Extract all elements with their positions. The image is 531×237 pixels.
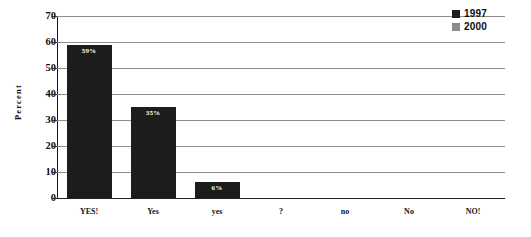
gridline [57,94,505,95]
legend-item: 1997 [452,8,514,20]
bar-value-label: 35% [131,109,176,117]
legend-swatch-icon [452,23,460,31]
legend-label: 2000 [464,22,487,32]
gridline [57,16,505,17]
bar: 35% [131,107,176,198]
gridline [57,146,505,147]
x-axis-category-label: NO! [433,208,513,216]
bar: 59% [67,45,112,198]
bar-chart: Percent 010203040506070 59%35%6% YES!Yes… [0,0,531,237]
chart-legend: 19972000 [452,8,514,34]
y-axis-tick-labels: 010203040506070 [28,0,56,237]
axis-baseline [57,198,505,199]
plot-area: 59%35%6% [57,16,505,198]
gridline [57,120,505,121]
bar: 6% [195,182,240,198]
gridline [57,172,505,173]
legend-item: 2000 [452,21,514,33]
gridline [57,68,505,69]
y-axis-title: Percent [14,84,28,120]
gridline [57,42,505,43]
legend-swatch-icon [452,10,460,18]
bar-value-label: 59% [67,47,112,55]
legend-label: 1997 [464,9,487,19]
bar-value-label: 6% [195,184,240,192]
